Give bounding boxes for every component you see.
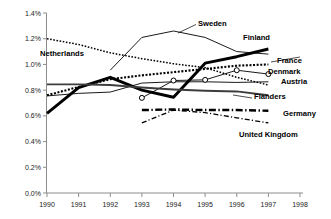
x-tick-label: 1996	[229, 201, 245, 208]
series-marker-denmark	[171, 78, 176, 83]
x-tick-label: 1990	[39, 201, 55, 208]
series-label-finland: Finland	[243, 33, 270, 42]
series-label-denmark: Denmark	[268, 67, 301, 76]
y-tick-label: 1.4%	[25, 10, 41, 17]
y-tick-label: 0.4%	[25, 138, 41, 145]
series-label-netherlands: Netherlands	[40, 49, 84, 58]
series-label-flanders: Flanders	[254, 92, 286, 101]
y-tick-label: 0.8%	[25, 87, 41, 94]
series-line-netherlands	[47, 39, 268, 85]
x-tick-label: 1995	[197, 201, 213, 208]
y-tick-label: 1.2%	[25, 35, 41, 42]
series-line-finland	[47, 49, 268, 113]
y-tick-label: 0.6%	[25, 112, 41, 119]
series-label-sweden: Sweden	[198, 19, 227, 28]
y-tick-label: 1.0%	[25, 61, 41, 68]
series-marker-denmark	[203, 77, 208, 82]
chart-series-labels: SwedenFinlandNetherlandsFranceDenmarkAus…	[40, 19, 317, 139]
series-label-united-kingdom: United Kingdom	[239, 130, 298, 139]
series-label-france: France	[277, 56, 302, 65]
y-tick-label: 0.2%	[25, 164, 41, 171]
label-leader-line	[233, 95, 252, 98]
series-line-united-kingdom	[142, 110, 269, 123]
label-leader-line	[178, 25, 196, 34]
series-marker-denmark	[139, 95, 144, 100]
x-tick-label: 1992	[102, 201, 118, 208]
line-chart: SwedenFinlandNetherlandsFranceDenmarkAus…	[0, 0, 331, 219]
series-line-germany	[142, 109, 269, 110]
chart-series-layer	[47, 31, 268, 123]
series-label-austria: Austria	[281, 77, 308, 86]
x-tick-label: 1998	[292, 201, 308, 208]
x-tick-label: 1991	[71, 201, 87, 208]
series-marker-denmark	[234, 68, 239, 73]
chart-canvas: SwedenFinlandNetherlandsFranceDenmarkAus…	[0, 0, 331, 219]
x-tick-label: 1997	[261, 201, 277, 208]
y-tick-label: 0.0%	[25, 190, 41, 197]
x-tick-label: 1994	[166, 201, 182, 208]
x-tick-label: 1993	[134, 201, 150, 208]
series-label-germany: Germany	[283, 109, 317, 118]
